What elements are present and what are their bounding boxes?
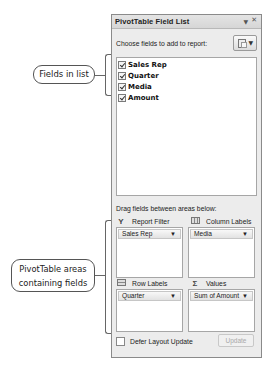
values-area[interactable]: Sum of Amount ▼ bbox=[188, 289, 255, 332]
column-labels-area[interactable]: Media ▼ bbox=[188, 227, 255, 278]
chevron-down-icon[interactable]: ▼ bbox=[170, 292, 176, 300]
report-filter-area[interactable]: Sales Rep ▼ bbox=[116, 227, 183, 278]
pill-label: Sum of Amount bbox=[194, 292, 239, 299]
callout-areas-line1: PivotTable areas bbox=[12, 262, 94, 276]
row-labels-header: Row Labels bbox=[116, 278, 168, 288]
field-label: Sales Rep bbox=[128, 61, 167, 69]
defer-layout-label: Defer Layout Update bbox=[130, 338, 193, 345]
values-header: Σ Values bbox=[190, 278, 226, 288]
field-label: Media bbox=[128, 83, 152, 91]
field-label: Amount bbox=[128, 94, 159, 102]
drag-fields-label: Drag fields between areas below: bbox=[116, 205, 217, 212]
layout-icon bbox=[238, 39, 246, 48]
field-checkbox[interactable] bbox=[118, 83, 126, 91]
defer-layout-update[interactable]: Defer Layout Update bbox=[116, 337, 193, 346]
update-button[interactable]: Update bbox=[218, 334, 254, 347]
sigma-icon: Σ bbox=[190, 279, 200, 288]
field-list-box[interactable]: Sales Rep Quarter Media Amount bbox=[116, 57, 257, 196]
field-item-amount[interactable]: Amount bbox=[118, 92, 159, 103]
chevron-down-icon[interactable]: ▼ bbox=[170, 230, 176, 238]
pane-title: PivotTable Field List bbox=[115, 17, 189, 26]
callout-leader-line bbox=[95, 75, 105, 76]
row-labels-field-pill[interactable]: Quarter ▼ bbox=[118, 291, 181, 301]
column-labels-header: Column Labels bbox=[190, 216, 251, 226]
pane-title-bar[interactable]: PivotTable Field List ▼ ✕ bbox=[112, 15, 261, 29]
callout-fields-in-list: Fields in list bbox=[33, 65, 95, 84]
field-checkbox[interactable] bbox=[118, 72, 126, 80]
field-checkbox[interactable] bbox=[118, 94, 126, 102]
chevron-down-icon[interactable]: ▼ bbox=[242, 230, 248, 238]
columns-icon bbox=[190, 217, 200, 226]
pill-label: Sales Rep bbox=[122, 230, 152, 237]
close-icon[interactable]: ✕ bbox=[251, 16, 257, 24]
callout-fields-text: Fields in list bbox=[39, 69, 89, 79]
report-filter-label: Report Filter bbox=[132, 218, 169, 225]
filter-icon: Y bbox=[116, 217, 126, 226]
report-filter-header: Y Report Filter bbox=[116, 216, 169, 226]
pane-options-dropdown-icon[interactable]: ▼ bbox=[243, 18, 248, 25]
field-label: Quarter bbox=[128, 72, 159, 80]
column-labels-label: Column Labels bbox=[206, 218, 251, 225]
callout-areas-line2: containing fields bbox=[12, 276, 94, 290]
pivottable-field-list-pane: PivotTable Field List ▼ ✕ Choose fields … bbox=[111, 14, 262, 358]
field-item-quarter[interactable]: Quarter bbox=[118, 70, 159, 81]
row-labels-area[interactable]: Quarter ▼ bbox=[116, 289, 183, 332]
report-filter-field-pill[interactable]: Sales Rep ▼ bbox=[118, 229, 181, 239]
field-list-layout-button[interactable]: ▼ bbox=[233, 35, 257, 51]
defer-layout-checkbox[interactable] bbox=[116, 337, 125, 346]
row-labels-label: Row Labels bbox=[132, 280, 168, 287]
callout-leader-line bbox=[95, 275, 105, 276]
field-checkbox[interactable] bbox=[118, 61, 126, 69]
pill-label: Media bbox=[194, 230, 212, 237]
pill-label: Quarter bbox=[122, 292, 144, 299]
choose-fields-label: Choose fields to add to report: bbox=[116, 40, 207, 47]
field-item-sales-rep[interactable]: Sales Rep bbox=[118, 59, 167, 70]
callout-pivottable-areas: PivotTable areas containing fields bbox=[11, 259, 95, 292]
column-labels-field-pill[interactable]: Media ▼ bbox=[190, 229, 253, 239]
values-label: Values bbox=[206, 280, 226, 287]
chevron-down-icon[interactable]: ▼ bbox=[242, 292, 248, 300]
field-item-media[interactable]: Media bbox=[118, 81, 152, 92]
values-field-pill[interactable]: Sum of Amount ▼ bbox=[190, 291, 253, 301]
chevron-down-icon: ▼ bbox=[248, 39, 253, 46]
rows-icon bbox=[116, 279, 126, 288]
